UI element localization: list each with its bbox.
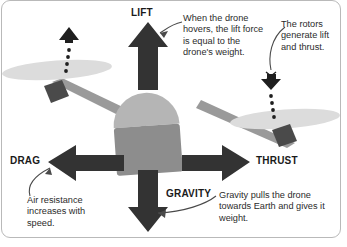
- callout-lift: When the drone hovers, the lift force is…: [183, 13, 269, 59]
- drone-forces-diagram: LIFT DRAG THRUST GRAVITY When the drone …: [0, 0, 347, 247]
- leader-line-lift: [160, 22, 182, 33]
- rotor-blade-left: [1, 57, 112, 84]
- drone-body-top: [111, 91, 179, 129]
- thrust-arrow: [182, 145, 250, 181]
- gravity-arrow: [128, 170, 168, 232]
- drag-arrow: [48, 145, 124, 181]
- label-thrust: THRUST: [256, 155, 298, 166]
- callout-rotors: The rotors generate lift and thrust.: [281, 19, 343, 53]
- callout-drag: Air resistance increases with speed.: [27, 195, 105, 229]
- label-drag: DRAG: [10, 155, 40, 166]
- label-gravity: GRAVITY: [166, 188, 211, 199]
- callout-gravity: Gravity pulls the drone towards Earth an…: [219, 190, 339, 224]
- label-lift: LIFT: [131, 7, 153, 18]
- drone-body-bottom: [114, 124, 183, 176]
